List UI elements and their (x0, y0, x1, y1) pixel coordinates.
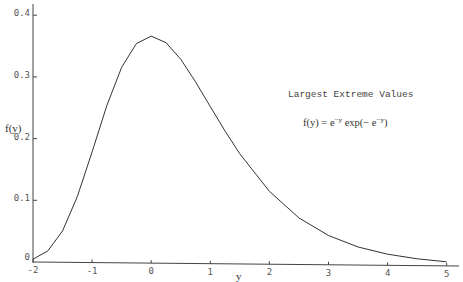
y-axis: 00.10.20.30.4 f(y) (5, 4, 37, 263)
y-tick-label: 0.1 (14, 193, 30, 203)
y-axis-label: f(y) (5, 122, 22, 135)
y-tick-label: 0.4 (14, 8, 30, 18)
formula-suffix: ) (384, 117, 388, 129)
x-tick-label: -1 (87, 266, 98, 276)
x-tick-label: 0 (148, 266, 153, 276)
x-tick-label: 4 (385, 268, 390, 278)
chart-title: Largest Extreme Values (288, 89, 413, 100)
x-tick-label: 1 (208, 267, 213, 277)
x-axis: -2-1012345 y (28, 259, 459, 282)
density-curve (33, 36, 447, 262)
y-ticks: 00.10.20.30.4 (14, 8, 37, 262)
formula-middle: exp(− e (342, 117, 377, 129)
x-tick-label: 5 (444, 269, 449, 279)
x-tick-label: 2 (267, 267, 272, 277)
chart-canvas: 00.10.20.30.4 f(y) -2-1012345 y Largest … (0, 0, 463, 282)
x-axis-label: y (236, 270, 242, 282)
y-tick-label: 0 (25, 252, 30, 262)
y-tick-label: 0.3 (14, 70, 30, 80)
x-tick-label: 3 (326, 268, 331, 278)
x-tick-label: -2 (28, 265, 39, 275)
formula-prefix: f(y) = e (303, 117, 335, 129)
formula-annotation: f(y) = e−y exp(− e−y) (303, 116, 388, 129)
